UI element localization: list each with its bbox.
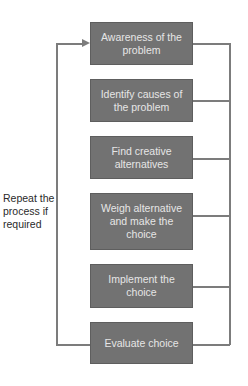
loop-label: Repeat the process if required bbox=[3, 192, 63, 231]
step-weigh-alternative: Weigh alternative and make the choice bbox=[90, 193, 193, 250]
right-collector-line bbox=[229, 43, 231, 345]
step-label: Evaluate choice bbox=[104, 337, 178, 350]
step-label: Weigh alternative and make the choice bbox=[95, 202, 188, 241]
connector-step-6 bbox=[193, 344, 230, 346]
step-awareness: Awareness of the problem bbox=[90, 22, 193, 65]
loop-top-line bbox=[56, 43, 84, 45]
connector-step-3 bbox=[193, 158, 230, 160]
step-find-alternatives: Find creative alternatives bbox=[90, 136, 193, 179]
loop-bottom-line bbox=[56, 344, 90, 346]
connector-step-4 bbox=[193, 215, 230, 217]
connector-step-1 bbox=[193, 43, 230, 45]
connector-step-5 bbox=[193, 286, 230, 288]
step-label: Awareness of the problem bbox=[95, 31, 188, 57]
step-implement: Implement the choice bbox=[90, 264, 193, 308]
step-label: Find creative alternatives bbox=[95, 145, 188, 171]
step-evaluate: Evaluate choice bbox=[90, 322, 193, 364]
step-identify-causes: Identify causes of the problem bbox=[90, 79, 193, 122]
connector-step-2 bbox=[193, 100, 230, 102]
step-label: Identify causes of the problem bbox=[95, 88, 188, 114]
arrow-head-icon bbox=[82, 39, 90, 47]
step-label: Implement the choice bbox=[95, 273, 188, 299]
